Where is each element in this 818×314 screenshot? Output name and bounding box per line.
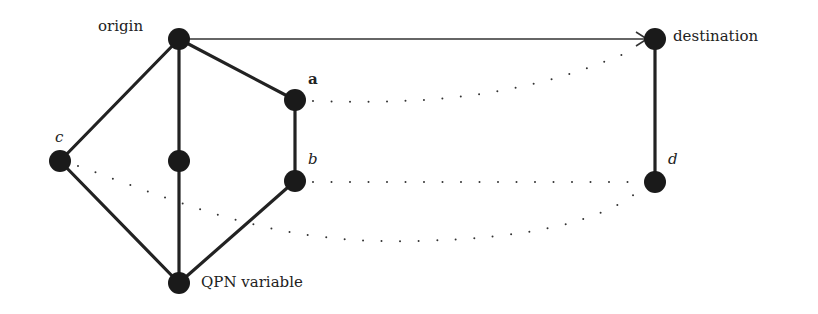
label-qpn-variable: QPN variable [201,275,303,290]
label-destination: destination [673,29,758,44]
dotted-edge-c-d [78,166,642,241]
label-d: d [668,152,678,167]
node-a[interactable] [284,89,306,111]
graph-canvas [0,0,818,314]
node-c[interactable] [49,150,71,172]
edge-origin-destination [179,32,647,46]
edge-c-qpn [60,161,179,283]
node-origin[interactable] [168,28,190,50]
edge-origin-c [60,39,179,161]
dotted-edges [78,50,642,241]
label-b: b [308,152,318,167]
label-origin: origin [98,19,143,34]
edge-b-qpn [179,181,295,283]
node-mid[interactable] [168,150,190,172]
solid-edges [60,39,655,283]
nodes [49,28,666,294]
node-b[interactable] [284,170,306,192]
label-c: c [55,130,63,145]
edge-origin-a [179,39,295,100]
dotted-edge-a-destination [313,50,633,102]
label-a: a [308,72,318,87]
node-d[interactable] [644,171,666,193]
node-destination[interactable] [644,28,666,50]
node-qpn-variable[interactable] [168,272,190,294]
